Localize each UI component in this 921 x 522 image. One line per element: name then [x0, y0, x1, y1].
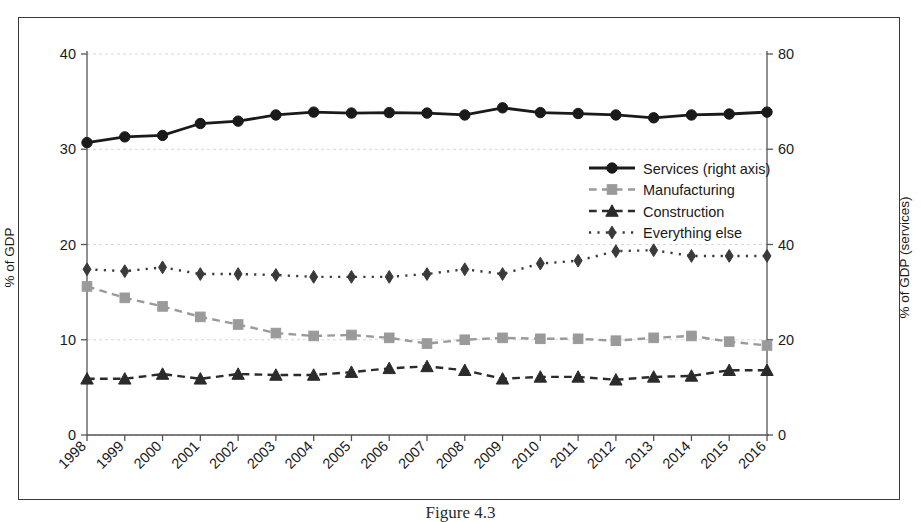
chart-frame: % of GDP % of GDP (services) 01020304002…: [18, 17, 900, 500]
data-point-circle: [648, 113, 658, 123]
data-point-square: [498, 333, 508, 343]
data-point-diamond: [234, 268, 242, 281]
data-point-square: [309, 331, 319, 341]
data-point-circle: [573, 108, 583, 118]
data-point-square: [607, 185, 617, 195]
data-point-diamond: [612, 245, 620, 258]
figure-root: % of GDP % of GDP (services) 01020304002…: [0, 0, 921, 522]
data-point-diamond: [763, 250, 771, 263]
legend-label-2: Construction: [643, 204, 724, 220]
data-point-circle: [460, 110, 470, 120]
x-axis-tick-label: 1998: [55, 438, 89, 472]
data-point-diamond: [574, 254, 582, 267]
data-point-circle: [120, 132, 130, 142]
data-point-diamond: [461, 263, 469, 276]
x-axis-tick-label: 2010: [508, 438, 542, 472]
series-3: [83, 244, 771, 283]
data-point-diamond: [310, 270, 318, 283]
data-point-diamond: [725, 250, 733, 263]
data-point-circle: [535, 107, 545, 117]
data-point-circle: [422, 108, 432, 118]
data-point-square: [611, 336, 621, 346]
legend-label-3: Everything else: [643, 225, 742, 241]
y-axis-left-tick-label: 10: [60, 332, 76, 348]
data-point-circle: [271, 110, 281, 120]
data-point-triangle: [459, 364, 471, 375]
data-point-triangle: [421, 360, 433, 371]
series-line: [87, 286, 767, 345]
data-point-square: [347, 330, 357, 340]
data-point-circle: [762, 107, 772, 117]
x-axis-tick-label: 2008: [433, 438, 467, 472]
data-point-diamond: [608, 226, 616, 239]
x-axis-tick-label: 2002: [206, 438, 240, 472]
y-axis-right-tick-label: 0: [778, 427, 786, 443]
data-point-circle: [384, 107, 394, 117]
data-point-square: [687, 331, 697, 341]
data-point-square: [120, 293, 130, 303]
chart-legend: Services (right axis)ManufacturingConstr…: [589, 161, 770, 242]
data-point-circle: [82, 137, 92, 147]
series-2: [81, 360, 773, 385]
y-axis-left-tick-label: 30: [60, 141, 76, 157]
series-0: [82, 103, 772, 148]
data-point-diamond: [83, 263, 91, 276]
x-axis-tick-label: 2005: [319, 438, 353, 472]
data-point-diamond: [272, 269, 280, 282]
data-point-diamond: [385, 270, 393, 283]
data-point-circle: [157, 130, 167, 140]
data-point-circle: [724, 109, 734, 119]
y-axis-right-tick-label: 20: [778, 332, 794, 348]
data-point-square: [271, 328, 281, 338]
y-axis-right-tick-label: 80: [778, 46, 794, 62]
data-point-circle: [308, 107, 318, 117]
x-axis-tick-label: 2015: [697, 438, 731, 472]
y-axis-left-tick-label: 20: [60, 237, 76, 253]
data-point-diamond: [423, 268, 431, 281]
data-point-square: [460, 335, 470, 345]
x-axis-tick-label: 2001: [168, 438, 202, 472]
data-point-square: [649, 333, 659, 343]
x-axis-tick-label: 2006: [357, 438, 391, 472]
y-axis-right-tick-label: 40: [778, 237, 794, 253]
data-point-circle: [195, 118, 205, 128]
x-axis-tick-label: 2011: [547, 438, 580, 471]
data-point-diamond: [687, 250, 695, 263]
data-point-circle: [686, 110, 696, 120]
x-axis-tick-label: 2009: [471, 438, 505, 472]
x-axis-tick-label: 2016: [735, 438, 769, 472]
data-point-circle: [346, 108, 356, 118]
data-point-diamond: [196, 268, 204, 281]
data-point-square: [158, 302, 168, 312]
data-point-diamond: [347, 270, 355, 283]
x-axis-tick-label: 2003: [244, 438, 278, 472]
chart-plot: 0102030400204060801998199920002001200220…: [19, 18, 901, 501]
data-point-diamond: [499, 268, 507, 281]
x-axis-tick-label: 2012: [584, 438, 618, 472]
legend-label-1: Manufacturing: [643, 182, 735, 198]
x-axis-tick-label: 2000: [131, 438, 165, 472]
x-axis-tick-label: 1999: [93, 438, 127, 472]
data-point-circle: [611, 110, 621, 120]
data-point-square: [422, 339, 432, 349]
data-point-circle: [607, 163, 617, 173]
data-point-circle: [497, 103, 507, 113]
x-axis-tick-label: 2007: [395, 438, 429, 472]
x-axis-tick-label: 2014: [659, 438, 693, 472]
data-point-square: [384, 333, 394, 343]
figure-caption: Figure 4.3: [0, 503, 921, 522]
y-axis-right-tick-label: 60: [778, 141, 794, 157]
data-point-square: [573, 334, 583, 344]
data-point-square: [762, 341, 772, 351]
data-point-circle: [233, 116, 243, 126]
x-axis-tick-label: 2004: [282, 438, 316, 472]
data-point-diamond: [159, 261, 167, 274]
legend-label-0: Services (right axis): [643, 161, 770, 177]
x-axis-tick-label: 2013: [622, 438, 656, 472]
y-axis-left-tick-label: 40: [60, 46, 76, 62]
data-point-diamond: [121, 265, 129, 278]
data-point-square: [82, 282, 92, 292]
data-point-square: [233, 320, 243, 330]
data-point-diamond: [650, 244, 658, 257]
data-point-square: [196, 312, 206, 322]
